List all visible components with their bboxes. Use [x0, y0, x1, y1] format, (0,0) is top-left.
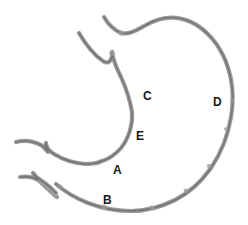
rugae-bump	[118, 30, 123, 35]
rugae-bump	[207, 164, 211, 168]
rugae-bump	[109, 50, 115, 56]
rugae-bump	[58, 185, 63, 190]
rugae-bump	[224, 127, 228, 131]
stomach-outline-svg	[0, 0, 248, 225]
region-label-d: D	[213, 96, 222, 108]
region-label-b: B	[103, 194, 112, 206]
region-label-e: E	[136, 130, 144, 142]
region-label-a: A	[113, 164, 122, 176]
fundus-greater-curvature-shadow	[56, 17, 233, 211]
stomach-diagram: ABCDE	[0, 0, 248, 225]
esophagus-lesser-curvature-shadow	[79, 33, 132, 162]
rugae-bump	[184, 189, 189, 194]
outline-shadow-layer	[16, 17, 233, 211]
rugae-bump	[150, 206, 155, 211]
rugae-bump-layer	[58, 30, 235, 210]
rugae-bump	[230, 99, 234, 103]
fundus-greater-curvature-path	[56, 17, 233, 211]
duodenum-upper-shadow	[16, 141, 100, 164]
region-label-c: C	[143, 90, 152, 102]
duodenum-upper-path	[16, 141, 100, 164]
